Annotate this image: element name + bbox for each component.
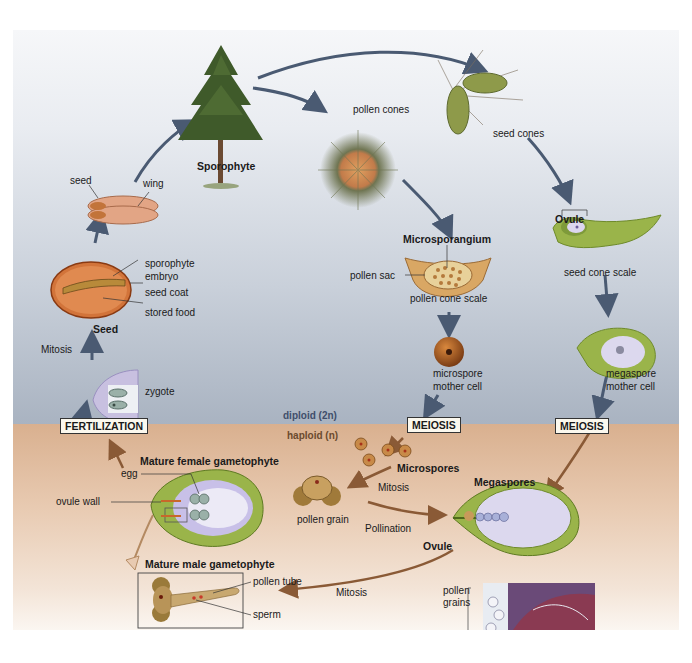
arrow-to-seed-cones [258,52,483,78]
label-meiosis-left: MEIOSIS [407,417,461,433]
label-ovule-top: Ovule [555,213,584,225]
label-diploid: diploid (2n) [283,410,337,421]
label-mitosis-male: Mitosis [336,587,367,599]
label-haploid: haploid (n) [287,430,338,441]
female-gametophyte-art [111,470,263,547]
label-pollen-cone-scale: pollen cone scale [410,293,487,305]
label-mitosis-pollen: Mitosis [378,482,409,494]
label-pollen-sac: pollen sac [350,270,395,282]
label-stored-food: stored food [145,307,195,319]
label-pollen-grain: pollen grain [297,514,349,526]
label-seed-small: seed [70,175,92,187]
label-sporophyte: Sporophyte [197,160,255,172]
winged-seed-art [88,185,158,224]
arrow-to-microsporangium [403,180,450,235]
label-microsporangium: Microsporangium [403,233,491,245]
arrow-to-meiosis-left [426,395,438,415]
pollen-micrograph [468,583,595,630]
label-seed-coat: seed coat [145,287,188,299]
label-mitosis-seed: Mitosis [41,344,72,356]
label-meiosis-right: MEIOSIS [555,418,609,434]
megaspores-ovule-art [453,482,579,556]
life-cycle-diagram: Sporophyte pollen cones seed cones Micro… [13,30,679,630]
label-mature-female: Mature female gametophyte [140,455,279,467]
label-pollen-cones: pollen cones [353,104,409,116]
label-microspores: Microspores [397,462,459,474]
label-sperm: sperm [253,609,281,621]
label-megaspore-mother-cell-1: megaspore [606,368,656,380]
label-wing: wing [143,178,164,190]
male-gametophyte-art [152,577,251,622]
label-zygote: zygote [145,386,174,398]
label-sporophyte-embryo-1: sporophyte [145,258,194,270]
label-megaspore-mother-cell-2: mother cell [606,381,655,393]
label-megaspores: Megaspores [474,476,535,488]
label-ovule-bottom: Ovule [423,540,452,552]
label-micrograph-2: grains [443,597,470,609]
pollen-grain-art [293,476,341,506]
label-microspore-mother-cell-1: microspore [433,368,482,380]
label-seed: Seed [93,323,118,335]
arrow-pollination [368,502,443,515]
arrow-mitosis-to-male [283,550,453,590]
label-seed-cone-scale: seed cone scale [564,267,636,279]
arrow-to-ovule [528,138,569,200]
label-egg: egg [121,468,138,480]
arrow-to-megaspores [548,430,591,495]
arrow-fertilization-to-zygote [83,405,86,418]
arrow-to-megaspore-mother-cell [605,275,608,312]
arrow-to-fertilization [111,443,123,468]
label-mature-male: Mature male gametophyte [145,558,275,570]
label-fertilization: FERTILIZATION [60,418,148,434]
label-microspore-mother-cell-2: mother cell [433,381,482,393]
arrow-to-pollen-cones [253,88,323,110]
label-sporophyte-embryo-2: embryo [145,271,178,283]
label-pollination: Pollination [365,523,411,535]
label-ovule-wall: ovule wall [56,496,100,508]
label-micrograph-1: pollen [443,585,470,597]
label-seed-cones: seed cones [493,128,544,140]
seed-cones-art [438,50,523,134]
label-pollen-tube: pollen tube [253,576,302,588]
